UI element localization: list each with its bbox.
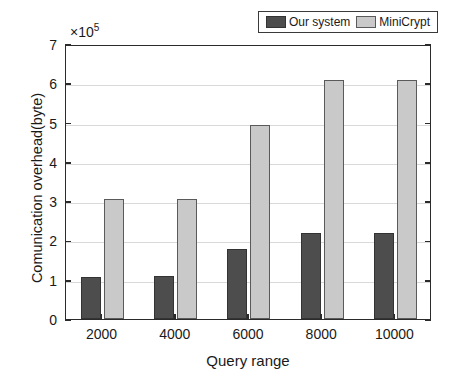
dark-gray-swatch: [266, 16, 286, 28]
bar-our-system-2000: [81, 277, 101, 319]
legend-entry-our-system: Our system: [266, 16, 350, 28]
x-tick-mark: [247, 314, 249, 320]
y-tick-mark-right: [425, 201, 431, 203]
y-axis-exponent-label: ×105: [70, 22, 99, 40]
bar-group: [139, 46, 212, 319]
y-tick-mark: [65, 123, 71, 125]
y-tick-mark: [65, 201, 71, 203]
chart-legend: Our systemMiniCrypt: [258, 11, 438, 33]
bar-our-system-8000: [301, 233, 321, 319]
x-tick-label-4000: 4000: [145, 326, 205, 342]
bar-minicrypt-6000: [250, 125, 270, 319]
x-tick-label-10000: 10000: [364, 326, 424, 342]
y-tick-label: 1: [35, 274, 57, 288]
x-tick-mark: [174, 314, 176, 320]
y-tick-label: 5: [35, 117, 57, 131]
y-tick-label: 2: [35, 234, 57, 248]
y-tick-mark: [65, 83, 71, 85]
bar-group: [286, 46, 359, 319]
x-tick-label-2000: 2000: [72, 326, 132, 342]
exponent-base: ×10: [70, 24, 94, 40]
light-gray-swatch: [356, 16, 376, 28]
bar-minicrypt-4000: [177, 199, 197, 319]
bar-group: [212, 46, 285, 319]
x-tick-label-6000: 6000: [218, 326, 278, 342]
bar-our-system-4000: [154, 276, 174, 319]
bar-chart-figure: ×105 Comunication overhead(byte) Query r…: [0, 0, 460, 387]
y-tick-mark-right: [425, 44, 431, 46]
bar-our-system-10000: [374, 233, 394, 319]
y-tick-mark-right: [425, 319, 431, 321]
y-tick-mark-right: [425, 162, 431, 164]
x-tick-label-8000: 8000: [291, 326, 351, 342]
x-tick-mark: [320, 314, 322, 320]
bar-group: [359, 46, 432, 319]
y-tick-mark: [65, 280, 71, 282]
y-tick-mark-right: [425, 83, 431, 85]
y-tick-mark: [65, 319, 71, 321]
bar-minicrypt-8000: [324, 80, 344, 319]
bar-series-container: [66, 46, 430, 319]
y-tick-mark-right: [425, 280, 431, 282]
bar-minicrypt-2000: [104, 199, 124, 319]
y-tick-label: 3: [35, 195, 57, 209]
plot-area: [65, 45, 431, 320]
y-tick-label: 0: [35, 313, 57, 327]
exponent-power: 5: [94, 22, 100, 33]
bar-our-system-6000: [227, 249, 247, 319]
legend-label: Our system: [289, 16, 350, 28]
y-tick-mark: [65, 44, 71, 46]
x-tick-mark: [101, 314, 103, 320]
bar-group: [66, 46, 139, 319]
bar-minicrypt-10000: [397, 80, 417, 319]
legend-entry-minicrypt: MiniCrypt: [356, 16, 430, 28]
y-tick-mark: [65, 241, 71, 243]
y-tick-mark: [65, 162, 71, 164]
legend-label: MiniCrypt: [379, 16, 430, 28]
y-tick-mark-right: [425, 123, 431, 125]
y-tick-label: 4: [35, 156, 57, 170]
y-tick-mark-right: [425, 241, 431, 243]
y-tick-label: 6: [35, 77, 57, 91]
y-tick-label: 7: [35, 38, 57, 52]
x-axis-title: Query range: [65, 352, 431, 369]
x-tick-mark: [394, 314, 396, 320]
